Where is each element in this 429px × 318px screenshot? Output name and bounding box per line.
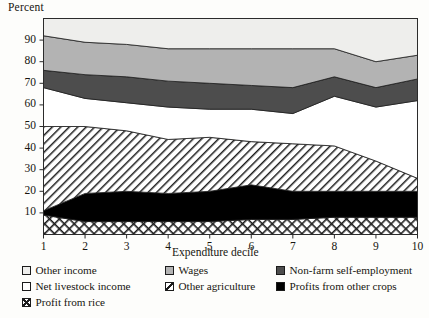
y-tick-label: 90	[10, 33, 36, 45]
legend-item-label: Profit from rice	[36, 296, 106, 309]
legend-item[interactable]: Profit from rice	[22, 295, 131, 310]
stacked-area-chart: Percent	[0, 0, 429, 318]
y-tick-label: 40	[10, 141, 36, 153]
plot-area: 908070605040302010 12345678910	[0, 0, 429, 264]
y-tick-label: 80	[10, 54, 36, 66]
medium-gray-square-icon	[165, 266, 174, 275]
legend-item-label: Other income	[36, 264, 97, 277]
x-axis-title: Expenditure decile	[172, 246, 259, 258]
light-gray-square-icon	[22, 266, 31, 275]
legend-item-label: Non-farm self-employment	[290, 264, 413, 277]
legend-item[interactable]: Wages	[165, 263, 255, 278]
legend-item-label: Net livestock income	[36, 280, 131, 293]
legend-item-label: Profits from other crops	[290, 280, 397, 293]
x-tick-label: 1	[34, 240, 54, 252]
y-tick-label: 50	[10, 119, 36, 131]
x-tick-label: 9	[366, 240, 386, 252]
legend-column-2: WagesOther agriculture	[165, 263, 255, 295]
legend-item[interactable]: Net livestock income	[22, 279, 131, 294]
crosshatch-square-icon	[22, 298, 31, 307]
y-tick-label: 30	[10, 162, 36, 174]
legend-item[interactable]: Other agriculture	[165, 279, 255, 294]
legend-column-1: Other incomeNet livestock incomeProfit f…	[22, 263, 131, 311]
black-square-icon	[276, 282, 285, 291]
x-tick-label: 8	[324, 240, 344, 252]
white-square-icon	[22, 282, 31, 291]
x-tick-label: 2	[75, 240, 95, 252]
plot-svg	[0, 0, 429, 264]
legend-item-label: Wages	[179, 264, 209, 277]
legend-item[interactable]: Profits from other crops	[276, 279, 412, 294]
dark-gray-square-icon	[276, 266, 285, 275]
x-tick-label: 7	[283, 240, 303, 252]
diagonal-hatch-square-icon	[165, 282, 174, 291]
x-tick-label: 10	[408, 240, 428, 252]
legend-item[interactable]: Non-farm self-employment	[276, 263, 412, 278]
chart-legend: Other incomeNet livestock incomeProfit f…	[0, 263, 429, 318]
legend-column-3: Non-farm self-employmentProfits from oth…	[276, 263, 412, 295]
legend-item-label: Other agriculture	[179, 280, 256, 293]
y-tick-label: 60	[10, 97, 36, 109]
y-tick-label: 70	[10, 76, 36, 88]
legend-item[interactable]: Other income	[22, 263, 131, 278]
x-tick-label: 3	[117, 240, 137, 252]
y-tick-label: 10	[10, 205, 36, 217]
y-tick-label: 20	[10, 184, 36, 196]
